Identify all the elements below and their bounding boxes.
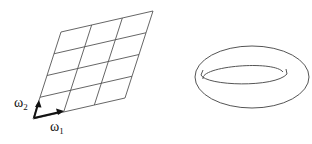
omega1-vector xyxy=(34,112,60,118)
period-vectors xyxy=(34,100,64,118)
omega1-label: ω1 xyxy=(50,119,64,136)
lattice-grid xyxy=(33,11,153,119)
torus xyxy=(195,46,309,108)
omega1-arrowhead-icon xyxy=(56,109,64,116)
diagram-canvas: ω2 ω1 xyxy=(0,0,312,144)
omega2-label: ω2 xyxy=(14,95,28,112)
torus-outer-outline xyxy=(195,46,309,108)
omega2-arrowhead-icon xyxy=(35,100,42,108)
torus-hole-lower-rim xyxy=(201,74,287,84)
torus-hole-upper-rim xyxy=(203,66,283,79)
